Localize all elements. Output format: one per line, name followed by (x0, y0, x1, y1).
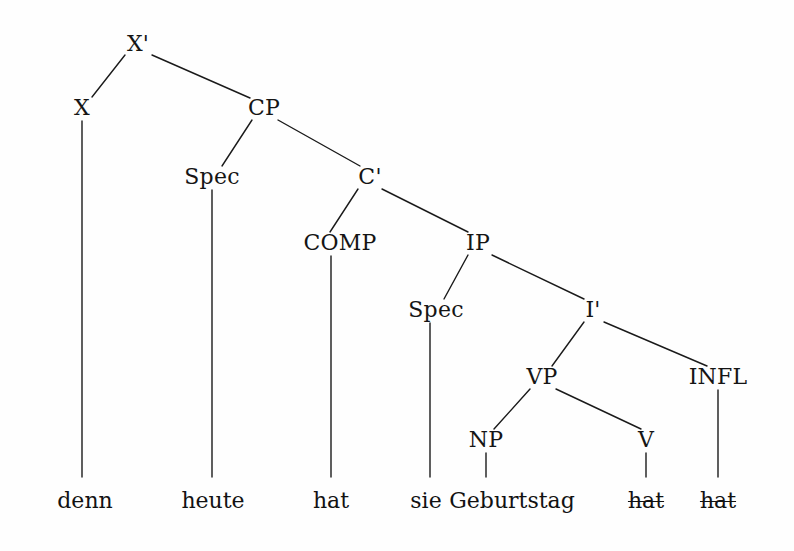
tree-branch-vp-to-np (494, 389, 530, 429)
tree-branch-cbar-to-ip (382, 189, 468, 232)
tree-terminal-t-hat3: hat (700, 490, 736, 512)
tree-node-specip: Spec (408, 299, 463, 321)
tree-node-np: NP (469, 429, 503, 451)
tree-node-cp: CP (248, 97, 280, 119)
tree-branch-xbar-to-cp (152, 55, 250, 98)
tree-branch-vp-to-v (556, 389, 641, 429)
tree-branch-ip-to-ibar (492, 255, 584, 299)
tree-node-vp: VP (526, 366, 557, 388)
tree-branch-ip-to-specip (444, 255, 468, 299)
tree-terminal-t-geburtstag: Geburtstag (449, 490, 575, 512)
tree-branch-cbar-to-comp (330, 189, 358, 232)
tree-branch-cp-to-cbar (278, 120, 360, 166)
tree-node-x: X (74, 97, 90, 119)
tree-terminal-t-sie: sie (410, 490, 441, 512)
syntax-tree-canvas: X'XCPSpecC'COMPIPSpecI'VPINFLNPV dennheu… (0, 0, 794, 551)
branch-group (82, 55, 718, 477)
tree-node-cbar: C' (358, 166, 381, 188)
tree-branches (0, 0, 794, 551)
tree-terminal-t-heute: heute (181, 490, 244, 512)
tree-terminal-t-denn: denn (57, 490, 112, 512)
tree-node-ibar: I' (585, 299, 600, 321)
tree-branch-ibar-to-infl (604, 322, 707, 366)
tree-branch-cp-to-speccp (222, 120, 252, 166)
tree-node-infl: INFL (689, 366, 748, 388)
tree-branch-ibar-to-vp (552, 322, 584, 366)
tree-branch-xbar-to-x (92, 55, 125, 97)
tree-node-comp: COMP (304, 232, 377, 254)
tree-terminal-t-hat1: hat (313, 490, 349, 512)
tree-node-xbar: X' (127, 33, 149, 55)
tree-node-ip: IP (466, 232, 490, 254)
tree-node-speccp: Spec (184, 166, 239, 188)
tree-node-v: V (638, 429, 654, 451)
tree-terminal-t-hat2: hat (628, 490, 664, 512)
